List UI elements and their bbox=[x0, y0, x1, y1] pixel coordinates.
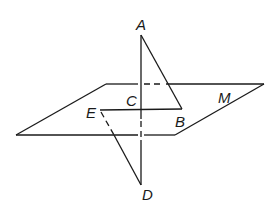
label-c: C bbox=[126, 92, 137, 109]
label-m: M bbox=[218, 89, 231, 106]
segment-ab bbox=[141, 35, 182, 109]
segment-eb bbox=[100, 109, 182, 110]
segment-ed-visible bbox=[114, 135, 141, 185]
geometry-diagram: A B C D E M bbox=[0, 0, 276, 210]
label-e: E bbox=[86, 104, 97, 121]
label-b: B bbox=[175, 113, 185, 130]
label-d: D bbox=[142, 186, 153, 203]
segment-ed-hidden bbox=[101, 112, 114, 135]
label-a: A bbox=[135, 16, 146, 33]
